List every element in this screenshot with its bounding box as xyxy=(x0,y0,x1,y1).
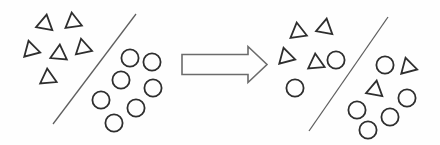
triangle-shape xyxy=(39,68,57,84)
triangle-shape xyxy=(21,39,41,57)
triangle-shape xyxy=(289,21,307,37)
triangle-shape xyxy=(73,37,92,54)
triangle-shape xyxy=(316,17,335,34)
circle-shape xyxy=(143,53,160,70)
circle-shape xyxy=(398,89,415,106)
circle-shape xyxy=(105,114,122,131)
triangle-shape xyxy=(64,11,82,27)
circle-shape xyxy=(376,56,393,73)
circle-shape xyxy=(144,79,161,96)
circle-shape xyxy=(121,49,138,66)
diagram-canvas xyxy=(0,0,440,145)
circle-shape xyxy=(327,51,344,68)
circle-shape xyxy=(348,101,365,118)
arrow-right-icon xyxy=(182,47,267,83)
left-scatter-group xyxy=(21,11,162,131)
circle-shape xyxy=(92,91,109,108)
circle-shape xyxy=(381,108,398,125)
separator-line xyxy=(53,14,136,124)
triangle-shape xyxy=(276,46,296,64)
triangle-shape xyxy=(307,53,325,69)
right-scatter-group xyxy=(276,17,418,139)
circle-shape xyxy=(112,71,129,88)
circle-shape xyxy=(286,79,303,96)
scatter-separation-diagram xyxy=(0,0,440,145)
triangle-shape xyxy=(36,13,55,30)
circle-shape xyxy=(127,99,144,116)
circle-shape xyxy=(359,121,376,138)
triangle-shape xyxy=(366,79,385,96)
triangle-shape xyxy=(50,44,68,60)
triangle-shape xyxy=(398,56,418,74)
